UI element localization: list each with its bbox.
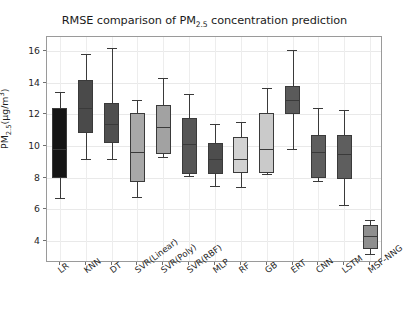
chart-title-post: concentration prediction — [208, 14, 348, 27]
chart-title-subscript: 2.5 — [196, 20, 208, 29]
y-axis-tick-label: 6 — [20, 203, 40, 214]
y-axis-tick-label: 14 — [20, 76, 40, 87]
whisker-cap-lower — [365, 254, 375, 255]
median-line — [363, 236, 378, 237]
y-axis-label-mid: (μg/m — [0, 97, 10, 125]
box-plot-item — [47, 37, 381, 261]
x-axis-tick-label: DT — [108, 260, 124, 275]
chart-title-pre: RMSE comparison of PM — [62, 14, 196, 27]
plot-area — [46, 36, 382, 262]
box-plot-figure: RMSE comparison of PM2.5 concentration p… — [0, 0, 409, 314]
y-axis-label-post: ) — [0, 89, 10, 93]
y-axis-tick-label: 8 — [20, 171, 40, 182]
y-axis-label-superscript: 3 — [0, 92, 6, 96]
y-axis-label: PM2.5(μg/m3) — [0, 89, 13, 149]
whisker-cap-upper — [365, 220, 375, 221]
y-axis-tick-label: 16 — [20, 45, 40, 56]
y-axis-label-subscript: 2.5 — [5, 124, 13, 135]
y-axis-tick-label: 10 — [20, 140, 40, 151]
y-axis-label-pre: PM — [0, 135, 10, 149]
y-axis-tick-label: 4 — [20, 234, 40, 245]
y-axis-tick-label: 12 — [20, 108, 40, 119]
chart-title: RMSE comparison of PM2.5 concentration p… — [0, 14, 409, 29]
